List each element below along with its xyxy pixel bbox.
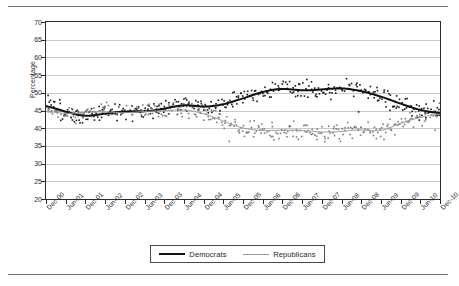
scatter-point [347, 122, 349, 124]
scatter-point [221, 99, 223, 101]
scatter-point [253, 120, 255, 122]
scatter-point [370, 86, 372, 88]
scatter-point [397, 121, 399, 123]
scatter-point [359, 84, 361, 86]
scatter-point [360, 127, 362, 129]
scatter-point [389, 110, 391, 112]
scatter-point [338, 138, 340, 140]
scatter-point [329, 92, 331, 94]
scatter-point [136, 106, 138, 108]
scatter-point [304, 95, 306, 97]
scatter-point [355, 84, 357, 86]
scatter-point [272, 126, 274, 128]
scatter-point [76, 120, 78, 122]
scatter-point [57, 116, 59, 118]
scatter-point [63, 115, 65, 117]
scatter-point [264, 132, 266, 134]
scatter-point [72, 119, 74, 121]
scatter-point [231, 104, 233, 106]
scatter-point [282, 83, 284, 85]
scatter-point [328, 125, 330, 127]
scatter-point [216, 122, 218, 124]
scatter-point [349, 134, 351, 136]
scatter-point [223, 128, 225, 130]
scatter-point [242, 95, 244, 97]
scatter-point [50, 100, 52, 102]
scatter-point [215, 110, 217, 112]
scatter-point [381, 127, 383, 129]
scatter-point [211, 111, 213, 113]
scatter-point [430, 117, 432, 119]
scatter-point [256, 101, 258, 103]
scatter-point [353, 127, 355, 129]
scatter-point [204, 104, 206, 106]
scatter-point [342, 90, 344, 92]
scatter-point [411, 111, 413, 113]
scatter-point [221, 122, 223, 124]
scatter-point [335, 89, 337, 91]
scatter-point [215, 103, 217, 105]
scatter-point [79, 122, 81, 124]
scatter-point [436, 116, 438, 118]
scatter-point [158, 105, 160, 107]
y-tick-label: 50 [24, 89, 42, 96]
y-tick-label: 30 [24, 160, 42, 167]
scatter-point [348, 127, 350, 129]
scatter-point [311, 129, 313, 131]
scatter-point [125, 119, 127, 121]
scatter-point [321, 132, 323, 134]
scatter-point [318, 132, 320, 134]
scatter-point [324, 138, 326, 140]
scatter-point [258, 126, 260, 128]
scatter-point [213, 110, 215, 112]
scatter-point [253, 136, 255, 138]
scatter-point [355, 127, 357, 129]
scatter-point [291, 92, 293, 94]
scatter-point [116, 120, 118, 122]
scatter-point [312, 133, 314, 135]
scatter-point [289, 91, 291, 93]
scatter-point [270, 96, 272, 98]
scatter-point [305, 124, 307, 126]
scatter-point [152, 118, 154, 120]
scatter-point [116, 114, 118, 116]
y-tick-label: 40 [24, 125, 42, 132]
scatter-point [298, 139, 300, 141]
scatter-point [232, 106, 234, 108]
scatter-point [395, 107, 397, 109]
scatter-point [147, 108, 149, 110]
y-tick-label: 20 [24, 196, 42, 203]
scatter-point [198, 108, 200, 110]
scatter-point [238, 97, 240, 99]
scatter-point [229, 100, 231, 102]
scatter-point [385, 106, 387, 108]
scatter-point [219, 113, 221, 115]
scatter-point [275, 132, 277, 134]
scatter-point [333, 128, 335, 130]
scatter-point [394, 106, 396, 108]
scatter-point [341, 128, 343, 130]
scatter-point [147, 104, 149, 106]
scatter-point [402, 109, 404, 111]
scatter-point [350, 127, 352, 129]
scatter-point [234, 119, 236, 121]
scatter-point [47, 95, 49, 97]
legend-label-democrats: Democrats [189, 250, 226, 259]
scatter-point [143, 116, 145, 118]
scatter-point [136, 108, 138, 110]
scatter-point [260, 132, 262, 134]
scatter-point [336, 124, 338, 126]
scatter-point [232, 92, 234, 94]
scatter-point [286, 136, 288, 138]
scatter-point [395, 123, 397, 125]
scatter-point [219, 110, 221, 112]
scatter-points-layer [46, 78, 440, 143]
scatter-point [153, 103, 155, 105]
scatter-point [77, 110, 79, 112]
scatter-point [374, 91, 376, 93]
scatter-point [314, 87, 316, 89]
chart-legend: Democrats Republicans [150, 245, 325, 263]
scatter-point [186, 99, 188, 101]
scatter-point [406, 107, 408, 109]
